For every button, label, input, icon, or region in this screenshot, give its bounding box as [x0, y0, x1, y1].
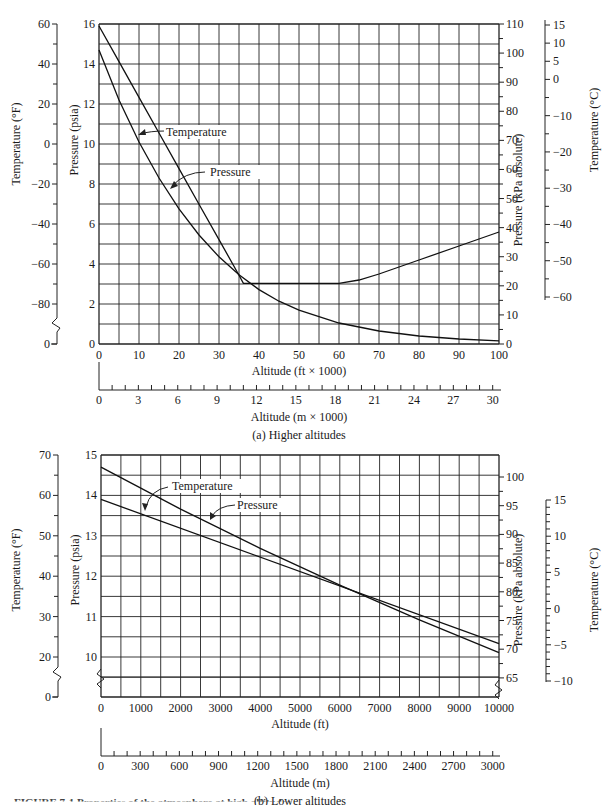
svg-text:Altitude (ft): Altitude (ft): [271, 717, 329, 731]
svg-text:0: 0: [45, 690, 51, 704]
svg-text:Altitude (m): Altitude (m): [270, 776, 330, 790]
svg-text:−60: −60: [553, 290, 572, 304]
svg-text:10: 10: [83, 137, 95, 151]
svg-text:Pressure (psia): Pressure (psia): [67, 105, 81, 176]
svg-text:80: 80: [506, 104, 518, 118]
psia-axis: 0246810121416Pressure (psia): [67, 17, 95, 351]
svg-text:70: 70: [39, 448, 51, 462]
svg-text:100: 100: [506, 470, 524, 484]
svg-text:−10: −10: [554, 674, 573, 688]
kpa-axis: 1101009080706050403020100Pressure (kPa a…: [499, 17, 525, 351]
svg-text:300: 300: [131, 759, 149, 773]
svg-text:18: 18: [329, 393, 341, 407]
svg-text:90: 90: [453, 348, 465, 362]
annotation-pressure: Pressure: [210, 165, 251, 179]
svg-text:1000: 1000: [129, 701, 153, 715]
svg-text:21: 21: [369, 393, 381, 407]
svg-text:65: 65: [506, 671, 518, 685]
svg-text:0: 0: [554, 602, 560, 616]
svg-text:60: 60: [38, 17, 50, 31]
annotation-temperature: Temperature: [172, 479, 232, 493]
svg-text:−10: −10: [553, 109, 572, 123]
svg-text:900: 900: [210, 759, 228, 773]
svg-text:2: 2: [89, 297, 95, 311]
svg-text:8000: 8000: [407, 701, 431, 715]
svg-text:90: 90: [506, 75, 518, 89]
svg-text:−40: −40: [553, 217, 572, 231]
svg-text:0: 0: [98, 759, 104, 773]
annotation-pressure: Pressure: [237, 498, 278, 512]
annotations: TemperaturePressure: [138, 125, 262, 189]
svg-text:Temperature (°F): Temperature (°F): [9, 103, 23, 186]
svg-text:20: 20: [38, 97, 50, 111]
svg-text:50: 50: [39, 529, 51, 543]
grid: [99, 24, 499, 344]
svg-text:12: 12: [83, 97, 95, 111]
svg-text:9000: 9000: [447, 701, 471, 715]
x-axis-ft: 0100020003000400050006000700080009000100…: [98, 701, 514, 731]
svg-text:−80: −80: [31, 297, 50, 311]
figure-canvas: 0246810121416Pressure (psia)6040200−20−4…: [0, 0, 605, 805]
svg-text:30: 30: [487, 393, 499, 407]
svg-text:3000: 3000: [481, 759, 505, 773]
svg-text:100: 100: [506, 46, 524, 60]
svg-text:100: 100: [490, 348, 508, 362]
lower-chart-lower-altitudes: 101112131415Pressure (psia)7060504030200…: [9, 448, 601, 805]
svg-text:5000: 5000: [288, 701, 312, 715]
svg-text:40: 40: [39, 569, 51, 583]
svg-text:5: 5: [553, 54, 559, 68]
svg-text:20: 20: [173, 348, 185, 362]
svg-text:3: 3: [135, 393, 141, 407]
x-axis-ft: 0102030405060708090100Altitude (ft × 100…: [96, 348, 508, 378]
annotation-temperature: Temperature: [166, 125, 226, 139]
celsius-axis: 151050−10−20−30−40−50−60Temperature (°C): [545, 18, 601, 304]
svg-text:15: 15: [553, 18, 565, 32]
svg-text:0: 0: [44, 137, 50, 151]
svg-text:10: 10: [133, 348, 145, 362]
svg-text:4: 4: [89, 257, 95, 271]
chart-subtitle: (a) Higher altitudes: [252, 428, 346, 442]
svg-text:600: 600: [170, 759, 188, 773]
svg-text:80: 80: [413, 348, 425, 362]
svg-text:15: 15: [290, 393, 302, 407]
svg-text:−5: −5: [554, 638, 567, 652]
svg-text:−50: −50: [553, 254, 572, 268]
svg-text:2700: 2700: [442, 759, 466, 773]
svg-text:50: 50: [293, 348, 305, 362]
psia-axis: 101112131415Pressure (psia): [68, 448, 104, 688]
svg-text:1200: 1200: [246, 759, 270, 773]
svg-text:Altitude (m × 1000): Altitude (m × 1000): [251, 410, 347, 424]
svg-text:5: 5: [554, 565, 560, 579]
x-axis-m: 03006009001200150018002100240027003000Al…: [98, 728, 505, 790]
svg-text:7000: 7000: [368, 701, 392, 715]
svg-text:Temperature (°C): Temperature (°C): [587, 548, 601, 632]
svg-text:0: 0: [553, 72, 559, 86]
svg-text:6: 6: [175, 393, 181, 407]
celsius-axis: 151050−5−10Temperature (°C): [546, 493, 601, 688]
svg-text:10: 10: [506, 308, 518, 322]
svg-text:−30: −30: [553, 181, 572, 195]
svg-text:60: 60: [39, 488, 51, 502]
svg-text:Pressure (psia): Pressure (psia): [68, 535, 82, 606]
svg-text:−40: −40: [31, 217, 50, 231]
svg-text:2100: 2100: [363, 759, 387, 773]
atmosphere-figure: 0246810121416Pressure (psia)6040200−20−4…: [0, 0, 605, 805]
svg-text:2000: 2000: [169, 701, 193, 715]
svg-text:15: 15: [554, 493, 566, 507]
svg-text:8: 8: [89, 177, 95, 191]
svg-text:2400: 2400: [402, 759, 426, 773]
svg-text:4000: 4000: [248, 701, 272, 715]
grid: [101, 455, 499, 697]
svg-text:0: 0: [98, 701, 104, 715]
svg-text:40: 40: [253, 348, 265, 362]
svg-text:Temperature (°F): Temperature (°F): [9, 529, 23, 612]
svg-text:3000: 3000: [208, 701, 232, 715]
svg-text:10000: 10000: [484, 701, 514, 715]
fahrenheit-axis: 7060504030200Temperature (°F): [9, 448, 61, 704]
svg-text:10: 10: [554, 529, 566, 543]
svg-text:95: 95: [506, 499, 518, 513]
svg-text:0: 0: [96, 393, 102, 407]
svg-text:12: 12: [250, 393, 262, 407]
svg-text:0: 0: [96, 348, 102, 362]
svg-text:15: 15: [85, 448, 97, 462]
